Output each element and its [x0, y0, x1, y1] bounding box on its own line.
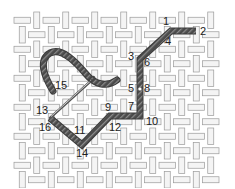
- weave-thread: [14, 133, 31, 139]
- weave-thread: [29, 90, 46, 96]
- point-label-11: 11: [74, 124, 85, 136]
- weave-thread: [164, 172, 170, 189]
- weave-thread: [29, 177, 46, 183]
- pierce-point: [138, 87, 141, 90]
- weave-thread: [203, 119, 220, 125]
- weave-thread: [87, 90, 104, 96]
- weave-thread: [34, 157, 40, 174]
- weave-thread: [135, 143, 141, 160]
- weave-thread: [92, 99, 98, 116]
- stitch-diagram: 12345678910111213141516: [0, 0, 235, 188]
- weave-thread: [150, 70, 156, 87]
- weave-thread: [106, 143, 112, 160]
- weave-thread: [179, 99, 185, 116]
- weave-thread: [145, 32, 162, 38]
- weave-thread: [72, 17, 89, 23]
- weave-thread: [77, 27, 83, 44]
- weave-thread: [135, 172, 141, 189]
- weave-thread: [121, 157, 127, 174]
- weave-thread: [48, 172, 54, 189]
- weave-thread: [159, 104, 176, 110]
- weave-thread: [116, 32, 133, 38]
- weave-thread: [150, 12, 156, 29]
- weave-thread: [208, 12, 214, 29]
- weave-thread: [159, 133, 176, 139]
- weave-thread: [48, 27, 54, 44]
- weave-thread: [203, 61, 220, 67]
- weave-thread: [159, 46, 176, 52]
- weave-thread: [208, 70, 214, 87]
- weave-thread: [72, 104, 89, 110]
- weave-thread: [188, 133, 205, 139]
- weave-thread: [174, 148, 191, 154]
- weave-thread: [77, 172, 83, 189]
- point-label-10: 10: [146, 115, 158, 127]
- point-label-5: 5: [128, 82, 134, 94]
- weave-thread: [29, 148, 46, 154]
- weave-thread: [19, 114, 25, 131]
- weave-thread: [121, 70, 127, 87]
- weave-thread: [188, 162, 205, 168]
- weave-thread: [193, 56, 199, 73]
- weave-thread: [174, 61, 191, 67]
- point-label-4: 4: [165, 35, 171, 47]
- weave-thread: [135, 27, 141, 44]
- weave-thread: [193, 85, 199, 102]
- point-label-13: 13: [36, 104, 48, 116]
- weave-thread: [203, 148, 220, 154]
- weave-thread: [14, 17, 31, 23]
- weave-thread: [58, 32, 75, 38]
- weave-thread: [159, 162, 176, 168]
- point-label-15: 15: [55, 79, 67, 91]
- weave-thread: [188, 75, 205, 81]
- weave-thread: [14, 104, 31, 110]
- weave-thread: [150, 157, 156, 174]
- point-label-8: 8: [144, 82, 150, 94]
- weave-thread: [164, 85, 170, 102]
- weave-thread: [203, 90, 220, 96]
- weave-thread: [72, 46, 89, 52]
- weave-thread: [179, 128, 185, 145]
- canvas-weave: [14, 12, 219, 188]
- weave-thread: [193, 143, 199, 160]
- weave-thread: [179, 70, 185, 87]
- weave-thread: [164, 114, 170, 131]
- weave-thread: [101, 162, 118, 168]
- weave-thread: [19, 56, 25, 73]
- weave-thread: [116, 148, 133, 154]
- weave-thread: [164, 143, 170, 160]
- weave-thread: [48, 143, 54, 160]
- weave-thread: [159, 75, 176, 81]
- weave-thread: [14, 46, 31, 52]
- weave-thread: [43, 162, 60, 168]
- weave-thread: [106, 56, 112, 73]
- weave-thread: [106, 27, 112, 44]
- weave-thread: [164, 56, 170, 73]
- weave-thread: [19, 143, 25, 160]
- weave-thread: [58, 177, 75, 183]
- weave-thread: [58, 148, 75, 154]
- weave-thread: [174, 90, 191, 96]
- weave-thread: [130, 133, 147, 139]
- weave-thread: [116, 177, 133, 183]
- weave-thread: [208, 128, 214, 145]
- weave-thread: [92, 41, 98, 58]
- weave-thread: [34, 70, 40, 87]
- weave-thread: [106, 172, 112, 189]
- weave-thread: [145, 177, 162, 183]
- weave-thread: [87, 32, 104, 38]
- weave-thread: [145, 148, 162, 154]
- weave-thread: [87, 177, 104, 183]
- point-label-2: 2: [200, 25, 206, 37]
- weave-thread: [19, 27, 25, 44]
- weave-thread: [188, 104, 205, 110]
- weave-thread: [63, 157, 69, 174]
- weave-thread: [19, 85, 25, 102]
- weave-thread: [19, 172, 25, 189]
- point-label-1: 1: [163, 15, 169, 27]
- point-label-7: 7: [128, 100, 134, 112]
- weave-thread: [203, 177, 220, 183]
- weave-thread: [130, 162, 147, 168]
- weave-thread: [101, 46, 118, 52]
- weave-thread: [188, 46, 205, 52]
